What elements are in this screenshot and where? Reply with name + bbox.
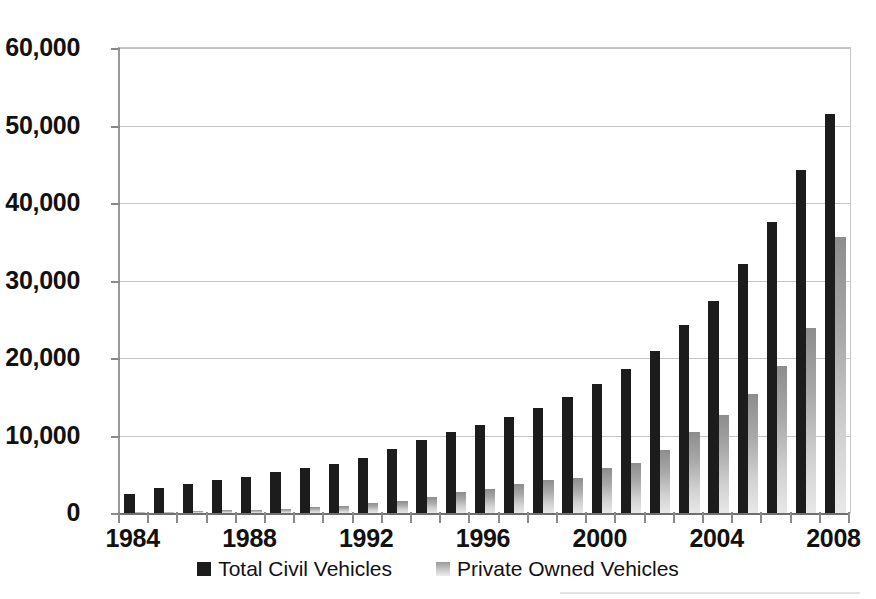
legend-item: Private Owned Vehicles [436,557,679,581]
bar-private-owned-vehicles [602,468,612,513]
x-tickmark [410,512,412,523]
x-tick-label: 1992 [339,524,393,553]
bar-group [562,48,582,513]
bar-group [241,48,261,513]
bar-private-owned-vehicles [719,415,729,513]
x-tickmark [760,512,762,523]
bar-total-civil-vehicles [562,397,572,513]
x-tickmark [118,512,120,523]
bar-group [679,48,699,513]
bar-group [446,48,466,513]
scan-artifact [560,592,860,594]
bar-total-civil-vehicles [679,325,689,513]
bar-private-owned-vehicles [660,450,670,513]
y-tick-label: 50,000 [5,110,80,139]
bar-group [504,48,524,513]
y-tickmark [111,48,120,50]
x-tickmark [731,512,733,523]
y-tickmark [111,436,120,438]
y-tick-label: 30,000 [5,265,80,294]
bar-private-owned-vehicles [835,237,845,513]
bar-group [592,48,612,513]
x-tickmark [352,512,354,523]
x-tickmark [702,512,704,523]
bar-group [650,48,670,513]
bar-total-civil-vehicles [329,464,339,513]
bar-group [300,48,320,513]
bar-private-owned-vehicles [485,489,495,513]
legend-label: Private Owned Vehicles [457,557,679,581]
bar-group [738,48,758,513]
x-tick-label: 1984 [105,524,159,553]
legend-item: Total Civil Vehicles [197,557,392,581]
x-tick-label: 1996 [456,524,510,553]
x-tick-label: 2000 [573,524,627,553]
bar-private-owned-vehicles [456,492,466,513]
legend-swatch-total-civil-vehicles [197,562,211,576]
bar-total-civil-vehicles [300,468,310,513]
bar-total-civil-vehicles [270,472,280,513]
bar-total-civil-vehicles [446,432,456,513]
bar-group [767,48,787,513]
bar-group [416,48,436,513]
x-tickmark [498,512,500,523]
bar-total-civil-vehicles [592,384,602,513]
y-tick-label: 60,000 [5,33,80,62]
x-tick-label: 2004 [689,524,743,553]
bar-total-civil-vehicles [650,351,660,513]
x-tickmark [556,512,558,523]
bar-total-civil-vehicles [825,114,835,513]
x-tickmark [527,512,529,523]
bar-group [154,48,174,513]
x-tickmark [176,512,178,523]
x-tickmark [439,512,441,523]
x-tick-label: 1988 [222,524,276,553]
bar-private-owned-vehicles [689,432,699,513]
y-tickmark [111,281,120,283]
bar-total-civil-vehicles [708,301,718,513]
plot-area [118,47,851,513]
bar-private-owned-vehicles [631,463,641,513]
bar-total-civil-vehicles [124,494,134,513]
x-axis-labels: 1984198819921996200020042008 [118,524,848,560]
y-tick-label: 40,000 [5,188,80,217]
bar-group [533,48,553,513]
y-tick-label: 10,000 [5,420,80,449]
bar-group [329,48,349,513]
bar-group [124,48,144,513]
x-tickmark [819,512,821,523]
y-tickmark [111,203,120,205]
bar-group [796,48,816,513]
bar-private-owned-vehicles [777,366,787,513]
x-tickmark [585,512,587,523]
y-tick-label: 0 [66,498,80,527]
bars-layer [120,48,850,513]
y-tickmark [111,126,120,128]
bar-total-civil-vehicles [358,458,368,513]
x-tickmark [790,512,792,523]
bar-group [183,48,203,513]
bar-total-civil-vehicles [533,408,543,513]
bar-total-civil-vehicles [475,425,485,513]
bar-total-civil-vehicles [504,417,514,513]
x-tickmark [848,512,850,523]
bar-total-civil-vehicles [183,484,193,513]
bar-total-civil-vehicles [738,264,748,513]
bar-group [270,48,290,513]
bar-total-civil-vehicles [387,449,397,513]
x-tickmark [381,512,383,523]
y-tickmark [111,358,120,360]
bar-total-civil-vehicles [212,480,222,513]
x-tickmark [322,512,324,523]
bar-private-owned-vehicles [806,328,816,513]
bar-total-civil-vehicles [416,440,426,513]
x-tickmark [644,512,646,523]
bar-total-civil-vehicles [767,222,777,513]
x-tickmark [264,512,266,523]
legend-swatch-private-owned-vehicles [436,562,450,576]
bar-total-civil-vehicles [154,488,164,513]
bar-private-owned-vehicles [543,480,553,513]
bar-private-owned-vehicles [748,394,758,513]
x-tickmark [206,512,208,523]
chart-legend: Total Civil VehiclesPrivate Owned Vehicl… [0,557,876,581]
